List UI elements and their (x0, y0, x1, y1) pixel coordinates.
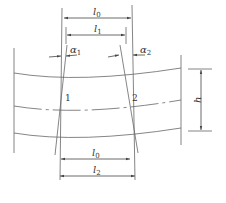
label-l0-bottom: l0 (92, 147, 100, 160)
bottom-curve (14, 128, 181, 137)
label-l0-top: l0 (93, 6, 101, 19)
label-l1: l1 (94, 23, 102, 36)
top-curve (14, 68, 181, 77)
alpha1-arrow-right (66, 55, 77, 56)
alpha1-arrow-left (49, 56, 61, 57)
center-dashdot-curve (14, 100, 181, 110)
marker-2: 2 (132, 93, 138, 103)
label-h: h (192, 97, 203, 103)
label-l2: l2 (93, 164, 101, 177)
marker-1: 1 (65, 93, 71, 103)
dimension-diagram: l0 l1 α1 α2 h 1 2 l0 l2 (0, 0, 226, 203)
alpha2-arrow-left (108, 55, 119, 57)
